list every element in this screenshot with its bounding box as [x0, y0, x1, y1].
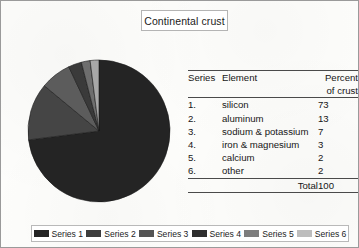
legend-swatch-icon	[139, 230, 154, 237]
legend-item[interactable]: Series 2	[86, 229, 136, 239]
cell-series: 1.	[188, 98, 222, 112]
table-header: Series Element Percent of crust	[188, 71, 358, 98]
legend-label: Series 3	[157, 229, 189, 239]
cell-element: calcium	[222, 151, 318, 164]
cell-element: other	[222, 164, 318, 178]
chart-title-box: Continental crust	[141, 10, 228, 31]
legend-swatch-icon	[34, 230, 49, 237]
pie-slice-group	[28, 60, 170, 202]
total-value: 100	[318, 178, 358, 192]
cell-percent: 7	[318, 125, 358, 138]
cell-percent: 73	[318, 98, 358, 112]
cell-series: 6.	[188, 164, 222, 178]
cell-element: iron & magnesium	[222, 138, 318, 151]
cell-element: silicon	[222, 98, 318, 112]
legend-item[interactable]: Series 5	[244, 229, 294, 239]
legend-item[interactable]: Series 6	[297, 229, 347, 239]
chart-legend: Series 1Series 2Series 3Series 4Series 5…	[31, 225, 349, 242]
table-body: 1.silicon732.aluminum133.sodium & potass…	[188, 98, 358, 178]
cell-series: 3.	[188, 125, 222, 138]
legend-item[interactable]: Series 3	[139, 229, 189, 239]
legend-item[interactable]: Series 1	[34, 229, 84, 239]
legend-label: Series 5	[262, 229, 294, 239]
table-row: 6.other2	[188, 164, 358, 178]
cell-series: 2.	[188, 112, 222, 125]
legend-swatch-icon	[86, 230, 101, 237]
legend-label: Series 2	[104, 229, 136, 239]
cell-element: aluminum	[222, 112, 318, 125]
table-row: 1.silicon73	[188, 98, 358, 112]
legend-swatch-icon	[297, 230, 312, 237]
cell-element: sodium & potassium	[222, 125, 318, 138]
cell-percent: 2	[318, 164, 358, 178]
column-header-percent: Percent of crust	[318, 71, 358, 98]
legend-label: Series 4	[210, 229, 242, 239]
chart-figure: Continental crust Series Element Percent…	[0, 0, 359, 248]
column-header-element: Element	[222, 71, 318, 98]
cell-percent: 2	[318, 151, 358, 164]
cell-series: 4.	[188, 138, 222, 151]
legend-label: Series 6	[315, 229, 347, 239]
cell-percent: 13	[318, 112, 358, 125]
cell-series: 5.	[188, 151, 222, 164]
pie-chart	[27, 56, 171, 206]
legend-swatch-icon	[244, 230, 259, 237]
legend-swatch-icon	[192, 230, 207, 237]
table-row: 3.sodium & potassium7	[188, 125, 358, 138]
table-footer: Total 100	[188, 178, 358, 192]
legend-item[interactable]: Series 4	[192, 229, 242, 239]
cell-percent: 3	[318, 138, 358, 151]
data-table: Series Element Percent of crust 1.silico…	[188, 70, 358, 193]
page-title: Continental crust	[144, 15, 225, 27]
total-label: Total	[188, 178, 318, 192]
table-row: 4.iron & magnesium3	[188, 138, 358, 151]
table-row: 5.calcium2	[188, 151, 358, 164]
pie-chart-svg	[27, 56, 171, 206]
legend-label: Series 1	[52, 229, 84, 239]
column-header-series: Series	[188, 71, 222, 98]
table-row: 2.aluminum13	[188, 112, 358, 125]
